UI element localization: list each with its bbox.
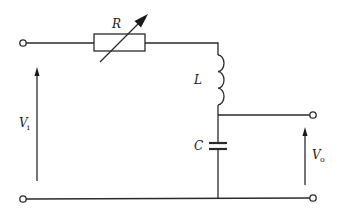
output-top-terminal — [310, 112, 316, 118]
capacitor-label: C — [194, 139, 203, 153]
output-voltage-subscript: o — [320, 155, 325, 164]
circuit-diagram: R L C V i V o — [0, 0, 337, 218]
resistor-label: R — [111, 17, 121, 31]
inductor-label: L — [193, 73, 202, 87]
input-voltage-subscript: i — [27, 123, 30, 132]
output-bottom-terminal — [310, 195, 316, 201]
input-top-terminal — [20, 40, 26, 46]
inductor-coil — [218, 55, 224, 105]
input-bottom-terminal — [20, 196, 26, 202]
wire-bottom — [26, 198, 310, 199]
output-voltage-arrowhead-icon — [303, 127, 308, 136]
wire-resistor-to-inductor — [145, 43, 218, 55]
input-voltage-arrowhead-icon — [35, 67, 40, 76]
